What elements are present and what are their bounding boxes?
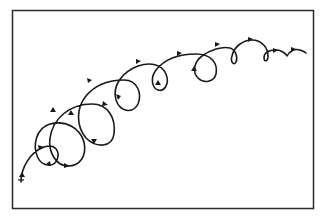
arrow-icon	[38, 145, 44, 150]
arrow-icon	[215, 42, 220, 47]
arrow-icon	[102, 101, 108, 106]
arrow-icon	[155, 80, 161, 85]
arrow-icon	[116, 94, 121, 100]
looping-trajectory	[21, 40, 306, 182]
arrow-icon	[136, 59, 141, 64]
trajectory-diagram	[0, 0, 323, 218]
arrow-icon	[87, 78, 92, 83]
arrow-icon	[191, 66, 197, 71]
arrow-icon	[19, 172, 25, 177]
arrow-icon	[50, 107, 56, 112]
direction-arrows	[19, 37, 296, 177]
diagram-frame	[13, 11, 314, 209]
